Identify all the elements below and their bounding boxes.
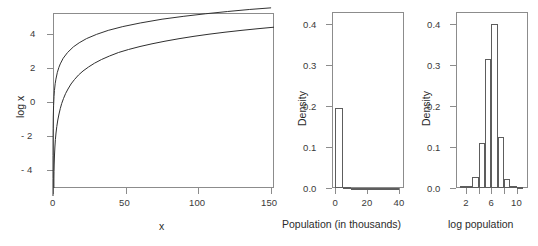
y-ticklabel-panel2: 0.0 — [303, 183, 317, 194]
histogram-bar — [383, 188, 391, 190]
histogram-bar — [479, 143, 485, 188]
y-ticklabel-panel1: - 4 — [21, 164, 32, 175]
log-x-path — [54, 27, 274, 188]
x-tick-panel2 — [399, 188, 400, 194]
x-ticklabel-panel3: 10 — [511, 197, 522, 208]
y-ticklabel-panel3: 0.3 — [427, 60, 441, 71]
y-tick-panel2 — [326, 147, 332, 148]
x-axis-title-panel3: log population — [448, 218, 513, 230]
panel-population-histogram: 0.0 0.1 0.2 0.3 0.4 0 20 40 Population (… — [278, 0, 410, 246]
y-ticklabel-panel1: 4 — [30, 28, 35, 39]
histogram-bar — [391, 188, 399, 190]
y-ticklabel-panel2: 0.1 — [303, 142, 317, 153]
panel-log-x-line-plot: - 4 - 2 0 2 4 0 50 100 150 x log x — [0, 0, 278, 246]
x-axis-title-panel1: x — [159, 220, 164, 232]
y-ticklabel-panel1: - 2 — [21, 130, 32, 141]
y-ticklabel-panel1: 0 — [30, 96, 35, 107]
histogram-bar — [359, 188, 367, 190]
y-ticklabel-panel3: 0.1 — [427, 142, 441, 153]
histogram-bar — [517, 187, 523, 189]
y-tick-panel2 — [326, 106, 332, 107]
y-tick-panel3 — [450, 147, 456, 148]
y-tick-panel3 — [450, 24, 456, 25]
histogram-bar — [335, 108, 343, 188]
histogram-bar — [351, 188, 359, 190]
histogram-bar — [367, 188, 375, 190]
y-ticklabel-panel2: 0.3 — [303, 60, 317, 71]
log-curve-svg-overlay — [53, 13, 275, 189]
x-ticklabel-panel1: 0 — [50, 197, 55, 208]
y-ticklabel-panel2: 0.4 — [303, 19, 317, 30]
y-ticklabel-panel3: 0.0 — [427, 183, 441, 194]
x-axis-title-panel2: Population (in thousands) — [282, 218, 401, 230]
y-axis-title-panel1: log x — [14, 96, 26, 118]
histogram-bar — [375, 188, 383, 190]
y-tick-panel3 — [450, 188, 456, 189]
panel-log-population-histogram: 0.0 0.1 0.2 0.3 0.4 2 6 10 log populatio… — [410, 0, 538, 246]
three-panel-figure: - 4 - 2 0 2 4 0 50 100 150 x log x 0.0 — [0, 0, 538, 246]
x-ticklabel-panel2: 20 — [362, 197, 373, 208]
y-axis-title-panel3: Density — [420, 91, 432, 126]
x-ticklabel-panel2: 40 — [394, 197, 405, 208]
x-ticklabel-panel1: 100 — [189, 197, 205, 208]
x-ticklabel-panel1: 50 — [119, 197, 130, 208]
y-tick-panel3 — [450, 106, 456, 107]
x-ticklabel-panel3: 2 — [463, 197, 468, 208]
y-tick-panel2 — [326, 65, 332, 66]
y-tick-panel2 — [326, 188, 332, 189]
x-ticklabel-panel1: 150 — [261, 197, 277, 208]
x-tick-panel2 — [335, 188, 336, 194]
x-tick-panel3 — [517, 188, 518, 194]
x-tick-panel3 — [491, 188, 492, 194]
y-ticklabel-panel3: 0.4 — [427, 19, 441, 30]
x-tick-panel3 — [504, 188, 505, 194]
y-tick-panel2 — [326, 24, 332, 25]
x-ticklabel-panel3: 6 — [489, 197, 494, 208]
x-ticklabel-panel2: 0 — [333, 197, 338, 208]
y-ticklabel-panel1: 2 — [30, 62, 35, 73]
x-tick-panel3 — [466, 188, 467, 194]
y-axis-title-panel2: Density — [296, 91, 308, 126]
y-tick-panel3 — [450, 65, 456, 66]
histogram-bar — [343, 187, 351, 189]
x-tick-panel3 — [479, 188, 480, 194]
